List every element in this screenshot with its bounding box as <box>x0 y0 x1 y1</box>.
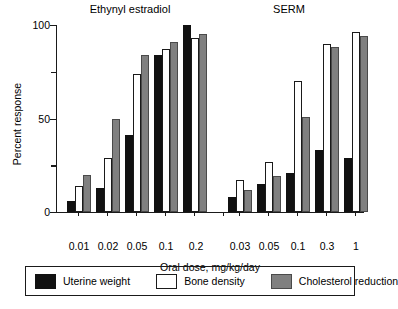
x-tick-p0-c3 <box>165 212 166 216</box>
x-tick-label-p1-c4: 1 <box>353 240 359 252</box>
bar-p1-c0-chol <box>244 190 252 212</box>
y-tick-25 <box>51 165 56 166</box>
bar-p1-c3-chol <box>331 47 339 212</box>
bar-p1-c1-chol <box>273 176 281 212</box>
panel-title-ethynyl-estradiol: Ethynyl estradiol <box>90 3 171 15</box>
bar-p1-c2-chol <box>302 117 310 212</box>
y-tick-50 <box>50 119 56 120</box>
legend-label-bone-density: Bone density <box>184 275 245 287</box>
bar-p0-c3-chol <box>170 42 178 212</box>
y-tick-label-100: 100 <box>32 20 50 31</box>
bar-p1-c1-bone <box>265 162 273 212</box>
bar-p0-c1-chol <box>112 119 120 213</box>
x-tick-p1-c2 <box>297 212 298 216</box>
bar-p0-c1-uterine <box>96 188 104 212</box>
x-tick-label-p0-c3: 0.1 <box>159 240 174 252</box>
legend-item-cholesterol-reduction: Cholesterol reduction <box>271 274 398 289</box>
x-tick-p0-c1 <box>107 212 108 216</box>
y-tick-label-50: 50 <box>38 113 50 124</box>
bar-p1-c4-bone <box>352 32 360 212</box>
x-tick-p0-c4 <box>194 212 195 216</box>
bar-p1-c4-chol <box>360 36 368 212</box>
bar-p0-c2-chol <box>141 55 149 212</box>
legend-label-cholesterol-reduction: Cholesterol reduction <box>299 275 398 287</box>
panel-title-serm: SERM <box>273 3 305 15</box>
x-tick-gap-1 <box>223 212 224 216</box>
plot-area: Ethynyl estradiol SERM <box>56 25 364 212</box>
y-axis-tick-labels: 100 50 0 <box>0 25 50 212</box>
bar-p0-c3-uterine <box>154 55 162 212</box>
x-tick-p1-c4 <box>355 212 356 216</box>
bar-p0-c2-uterine <box>125 135 133 212</box>
x-tick-p0-c2 <box>136 212 137 216</box>
legend-item-uterine-weight: Uterine weight <box>35 274 130 289</box>
x-tick-p1-c3 <box>326 212 327 216</box>
bar-p1-c2-bone <box>294 81 302 212</box>
x-tick-label-p0-c1: 0.02 <box>98 240 118 252</box>
bar-p0-c0-bone <box>75 186 83 212</box>
bar-p1-c4-uterine <box>344 158 352 212</box>
x-tick-label-p0-c2: 0.05 <box>127 240 147 252</box>
bar-p1-c2-uterine <box>286 173 294 212</box>
y-axis-title: Percent response <box>11 59 23 189</box>
legend-label-uterine-weight: Uterine weight <box>63 275 130 287</box>
x-tick-p0-c0 <box>78 212 79 216</box>
bar-p0-c3-bone <box>162 49 170 212</box>
bar-p0-c0-chol <box>83 175 91 212</box>
y-tick-100 <box>50 25 56 26</box>
x-tick-label-p0-c0: 0.01 <box>69 240 89 252</box>
legend-item-bone-density: Bone density <box>156 274 245 289</box>
x-tick-label-p1-c0: 0.03 <box>230 240 250 252</box>
legend-swatch-uterine-weight <box>35 274 56 289</box>
bar-p0-c4-uterine <box>183 25 191 212</box>
bar-p0-c4-bone <box>191 38 199 212</box>
bar-p1-c0-uterine <box>228 197 236 212</box>
x-tick-p1-c1 <box>268 212 269 216</box>
x-tick-p1-c0 <box>239 212 240 216</box>
bar-p0-c0-uterine <box>67 201 75 212</box>
y-axis-line <box>56 25 57 212</box>
bar-p1-c3-bone <box>323 44 331 212</box>
bar-p1-c1-uterine <box>257 184 265 212</box>
x-axis-line <box>56 212 364 213</box>
x-tick-label-p0-c4: 0.2 <box>189 240 204 252</box>
y-tick-75 <box>51 72 56 73</box>
bar-p0-c2-bone <box>133 74 141 212</box>
x-tick-label-p1-c3: 0.3 <box>320 240 335 252</box>
x-tick-label-p1-c1: 0.05 <box>259 240 279 252</box>
bar-p1-c3-uterine <box>315 150 323 212</box>
bar-p1-c0-bone <box>236 180 244 212</box>
legend: Uterine weight Bone density Cholesterol … <box>25 266 355 296</box>
y-tick-0 <box>50 212 56 213</box>
bar-p0-c1-bone <box>104 158 112 212</box>
bar-p0-c4-chol <box>199 34 207 212</box>
legend-swatch-cholesterol-reduction <box>271 274 292 289</box>
legend-swatch-bone-density <box>156 274 177 289</box>
x-tick-label-p1-c2: 0.1 <box>291 240 306 252</box>
